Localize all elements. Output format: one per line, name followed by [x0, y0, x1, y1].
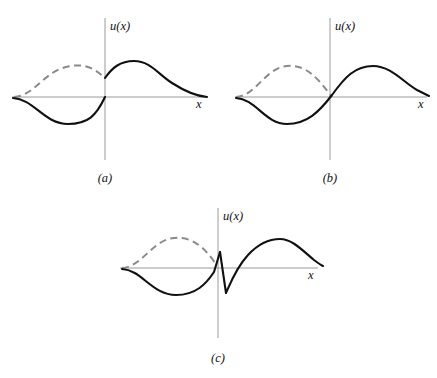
x-axis-label-c: x [307, 268, 314, 282]
dashed-curve-a [14, 65, 105, 97]
figure-container: u(x) x (a) u(x) x (b) u(x) x (c) [0, 0, 437, 378]
solid-curve-b [236, 66, 429, 124]
solid-curve-left-a [13, 97, 105, 124]
panel-b: u(x) x (b) [219, 0, 437, 195]
caption-b: (b) [323, 171, 338, 185]
y-axis-label-c: u(x) [223, 209, 243, 223]
y-axis-label-b: u(x) [335, 19, 355, 33]
solid-curve-spike-c [220, 239, 323, 293]
x-axis-label-a: x [195, 97, 202, 111]
solid-curve-left-c [122, 252, 220, 295]
caption-c: (c) [211, 351, 225, 365]
dashed-curve-c [122, 238, 216, 268]
solid-curve-right-a [105, 61, 207, 97]
dashed-curve-b [236, 66, 332, 97]
panel-a: u(x) x (a) [0, 0, 218, 195]
y-axis-label-a: u(x) [110, 19, 130, 33]
panel-c: u(x) x (c) [110, 196, 330, 378]
caption-a: (a) [98, 171, 113, 185]
x-axis-label-b: x [417, 97, 424, 111]
